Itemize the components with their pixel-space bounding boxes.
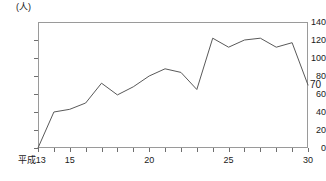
y-axis-tick-label: 80 [292,72,326,81]
x-axis-tick-mark [70,148,71,152]
y-axis-tick-mark [34,76,38,77]
x-axis-tick-label: 15 [65,155,75,165]
x-axis-tick-mark [229,148,230,152]
y-axis-tick-mark [34,58,38,59]
x-axis-tick-mark [292,148,293,152]
x-axis-tick-mark [165,148,166,152]
y-axis-tick-mark [34,40,38,41]
y-axis-tick-label: 100 [292,54,326,63]
x-axis-tick-mark [117,148,118,152]
y-axis-tick-mark [34,130,38,131]
y-axis-tick-label: 20 [292,126,326,135]
y-axis-tick-label: 120 [292,36,326,45]
x-axis-tick-mark [38,148,39,152]
y-axis-tick-mark [34,94,38,95]
y-axis-tick-label: 140 [292,18,326,27]
y-axis-tick-label: 40 [292,108,326,117]
x-axis-tick-mark [102,148,103,152]
x-axis-tick-mark [133,148,134,152]
x-axis-tick-mark [54,148,55,152]
y-axis-unit-label: (人) [16,2,31,13]
x-axis-tick-mark [260,148,261,152]
x-axis-tick-mark [308,148,309,152]
x-axis-tick-label: 20 [144,155,154,165]
x-axis-tick-mark [213,148,214,152]
plot-canvas [38,22,308,148]
x-axis-tick-mark [244,148,245,152]
y-axis-tick-mark [34,112,38,113]
x-axis-tick-mark [276,148,277,152]
x-axis-tick-mark [86,148,87,152]
x-axis-tick-label: 25 [224,155,234,165]
data-series-line [38,38,308,148]
x-axis-tick-mark [181,148,182,152]
x-axis-tick-mark [149,148,150,152]
x-axis-tick-label: 平成13 [18,155,46,165]
line-chart-figure: (人) 70 020406080100120140平成1315202530 [0,0,326,181]
y-axis-tick-label: 0 [292,144,326,153]
x-axis-tick-label: 30 [303,155,313,165]
x-axis-tick-mark [197,148,198,152]
y-axis-tick-label: 60 [292,90,326,99]
